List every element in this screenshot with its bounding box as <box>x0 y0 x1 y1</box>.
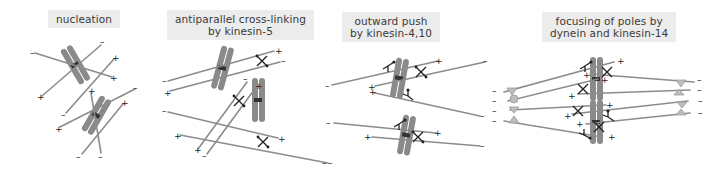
svg-text:+: + <box>617 56 625 66</box>
svg-text:+: + <box>275 46 283 56</box>
antiparallel-diagram: – + + – – + + – – + + – <box>150 0 330 172</box>
svg-text:–: – <box>492 106 497 116</box>
svg-text:+: + <box>174 131 182 141</box>
svg-text:–: – <box>483 56 488 66</box>
svg-text:+: + <box>112 53 120 63</box>
kinesin-5-icon <box>233 95 246 108</box>
svg-text:–: – <box>100 37 105 47</box>
chromosome-icon <box>60 44 91 85</box>
kinesin-4-10-icon <box>403 88 413 100</box>
svg-text:–: – <box>698 96 703 106</box>
svg-text:+: + <box>435 56 443 66</box>
svg-text:–: – <box>492 86 497 96</box>
svg-text:+: + <box>564 111 572 121</box>
nucleation-diagram: – + + – – + + – + – – + <box>0 0 150 172</box>
panel-nucleation: nucleation – + + – – + + – + – – + <box>0 0 150 172</box>
svg-text:–: – <box>162 106 167 116</box>
panel-focusing-poles: focusing of poles by dynein and kinesin-… <box>490 0 726 172</box>
focusing-poles-diagram: – – – – – – – – + + + + + + + + <box>490 0 726 172</box>
outward-push-diagram: – + + – + – – + + – – <box>320 0 500 172</box>
svg-text:–: – <box>697 75 702 85</box>
svg-text:–: – <box>76 152 81 162</box>
svg-text:–: – <box>480 111 485 121</box>
svg-text:+: + <box>88 86 96 96</box>
svg-text:+: + <box>110 73 118 83</box>
panel-antiparallel: antiparallel cross-linking by kinesin-5 … <box>150 0 320 172</box>
svg-text:–: – <box>698 108 703 118</box>
svg-text:–: – <box>133 83 138 93</box>
kinesin-5-icon <box>257 136 270 149</box>
dynein-kinesin-14-pole-icon <box>674 80 687 115</box>
svg-text:+: + <box>121 98 129 108</box>
svg-text:+: + <box>434 128 442 138</box>
svg-text:–: – <box>243 74 248 84</box>
svg-text:+: + <box>164 88 172 98</box>
svg-text:+: + <box>568 91 576 101</box>
panel-outward-push: outward push by kinesin-4,10 – + + – + – <box>320 0 490 172</box>
svg-text:+: + <box>55 124 63 134</box>
svg-text:–: – <box>492 96 497 106</box>
svg-text:–: – <box>326 118 331 128</box>
svg-text:+: + <box>255 81 263 91</box>
svg-text:–: – <box>98 152 103 162</box>
svg-text:–: – <box>325 81 330 91</box>
svg-text:+: + <box>364 132 372 142</box>
svg-text:–: – <box>480 141 485 151</box>
kinesin-5-icon <box>578 84 588 94</box>
kinesin-5-icon <box>573 106 583 116</box>
svg-text:+: + <box>369 87 377 97</box>
svg-text:+: + <box>278 134 286 144</box>
svg-text:+: + <box>37 92 45 102</box>
svg-text:+: + <box>608 132 616 142</box>
svg-text:–: – <box>202 151 207 161</box>
svg-text:–: – <box>162 76 167 86</box>
svg-text:+: + <box>194 145 202 155</box>
kinesin-5-icon <box>256 55 269 68</box>
svg-text:–: – <box>322 158 327 168</box>
dynein-kinesin-14-pole-icon <box>507 88 519 123</box>
svg-text:–: – <box>492 116 497 126</box>
svg-text:–: – <box>61 110 66 120</box>
svg-text:+: + <box>583 70 591 80</box>
svg-text:+: + <box>606 100 614 110</box>
svg-text:+: + <box>576 119 584 129</box>
svg-text:–: – <box>30 48 35 58</box>
svg-text:–: – <box>697 85 702 95</box>
svg-text:–: – <box>281 56 286 66</box>
